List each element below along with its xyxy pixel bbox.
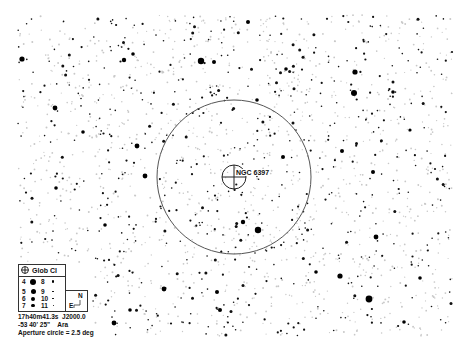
constellation-value: Ara [57,321,68,328]
magnitude-dot-icon [52,298,53,299]
magnitude-label: 10 [41,295,48,302]
target-label[interactable]: NGC 6397 [236,169,269,176]
magnitude-label: 9 [41,288,45,295]
magnitude-dot-icon [31,297,35,301]
magnitude-label: 5 [22,288,26,295]
compass-east: E [69,302,73,309]
compass: N E [65,290,88,312]
bright-stars [19,20,421,325]
magnitude-label: 11 [41,302,48,309]
legend-box: Glob Cl 4567891011 [18,264,66,312]
magnitude-label: 7 [22,302,26,309]
magnitude-dot-icon [52,291,54,293]
compass-north: N [78,292,83,299]
aperture-line: Aperture circle = 2.5 deg [18,329,94,337]
epoch-value: J2000.0 [62,313,86,320]
ra-value: 17h40m41.3s [18,313,58,320]
dec-value: -53 40' 25" [18,321,50,328]
globular-cluster-icon [21,266,29,274]
magnitude-dot-icon [30,279,36,285]
dec-line: -53 40' 25" Ara [18,321,68,329]
magnitude-label: 6 [22,295,26,302]
magnitude-label: 8 [41,278,45,285]
magnitude-dot-icon [31,304,34,307]
magnitude-dot-icon [52,280,55,283]
magnitude-label: 4 [22,278,26,285]
ra-line: 17h40m41.3s J2000.0 [18,313,86,321]
legend-header: Glob Cl [19,265,65,277]
legend-title: Glob Cl [32,265,57,276]
magnitude-dot-icon [31,289,36,294]
magnitude-dot-icon [53,305,54,306]
